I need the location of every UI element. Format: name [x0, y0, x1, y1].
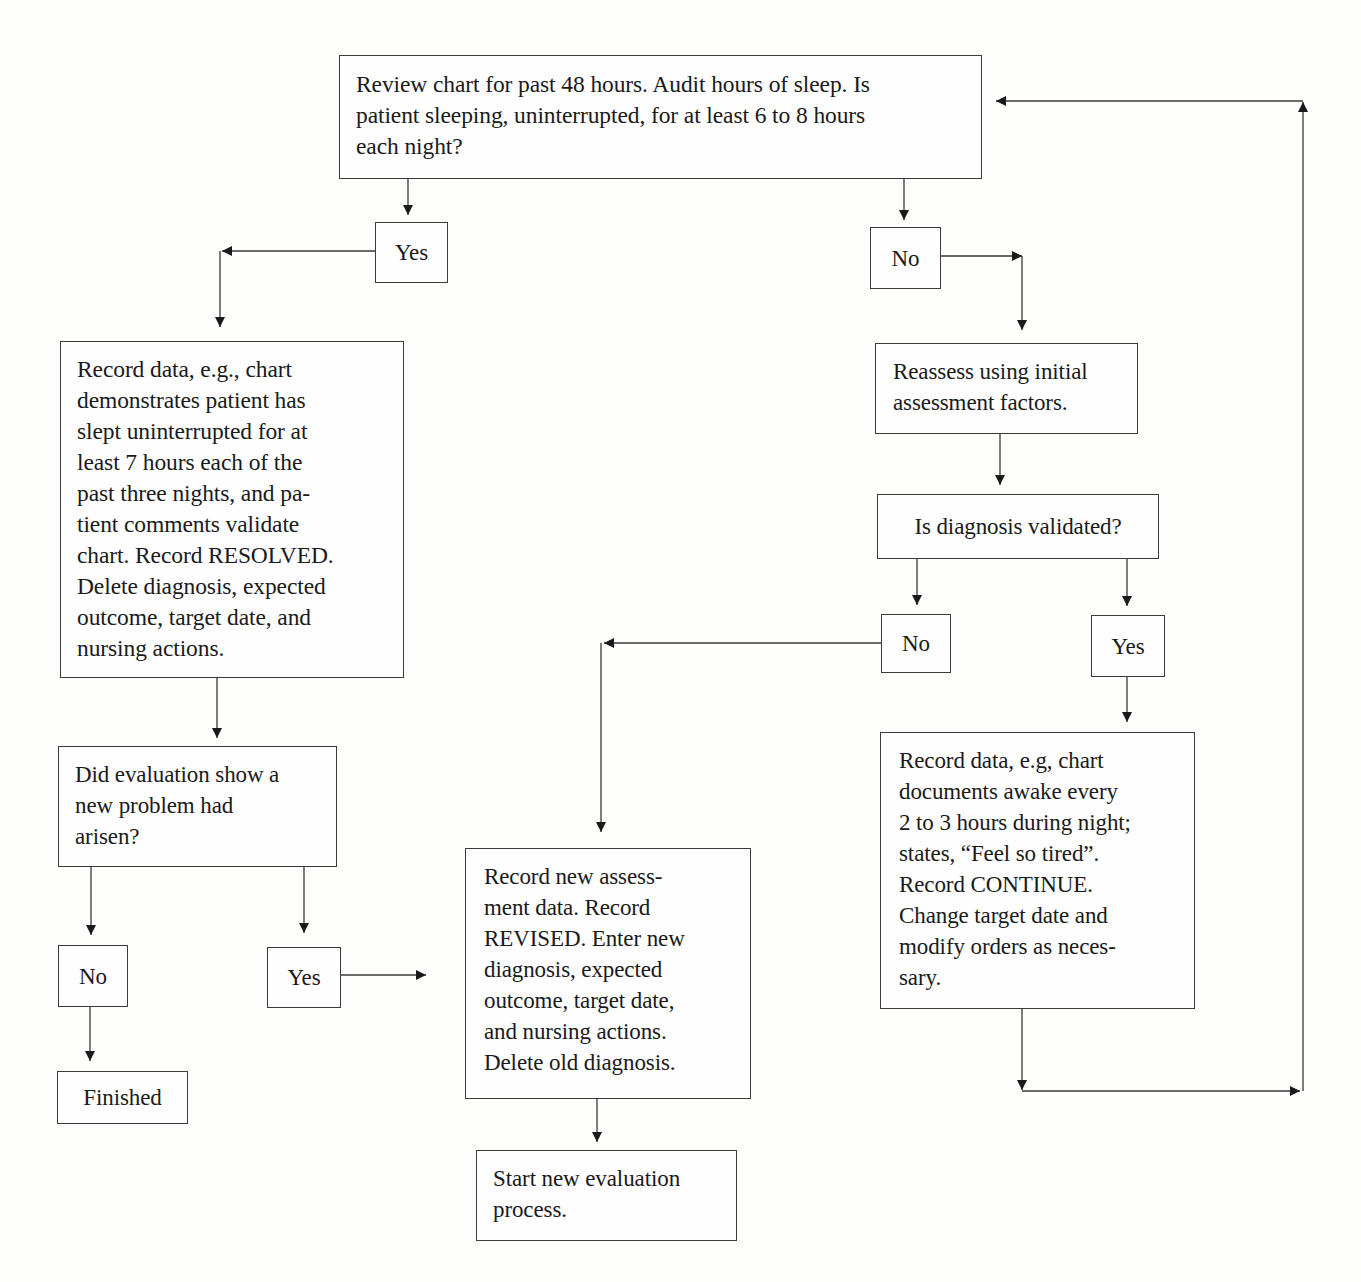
node-record-continue-text: Record data, e.g, chart documents awake … [899, 745, 1188, 993]
node-new-problem-text: Did evaluation show a new problem had ar… [75, 759, 326, 852]
node-no-validated: No [881, 614, 951, 673]
node-record-resolved-text: Record data, e.g., chart demonstrates pa… [77, 354, 393, 664]
node-reassess-text: Reassess using initial assessment factor… [893, 356, 1127, 418]
node-start-new-evaluation: Start new evaluation process. [476, 1150, 737, 1241]
node-no-sleep-text: No [892, 243, 920, 274]
node-yes-sleep: Yes [375, 222, 448, 283]
node-no-new-problem-text: No [79, 961, 107, 992]
node-record-revised-text: Record new assess- ment data. Record REV… [484, 861, 742, 1078]
node-finished: Finished [57, 1071, 188, 1124]
node-finished-text: Finished [83, 1082, 161, 1113]
node-record-continue: Record data, e.g, chart documents awake … [880, 732, 1195, 1009]
node-yes-new-problem-text: Yes [287, 962, 320, 993]
node-record-revised: Record new assess- ment data. Record REV… [465, 848, 751, 1099]
node-new-problem: Did evaluation show a new problem had ar… [58, 746, 337, 867]
node-start-new-evaluation-text: Start new evaluation process. [493, 1163, 728, 1225]
node-no-sleep: No [870, 227, 941, 289]
node-record-resolved: Record data, e.g., chart demonstrates pa… [60, 341, 404, 678]
node-yes-validated-text: Yes [1111, 631, 1144, 662]
node-review-chart-text: Review chart for past 48 hours. Audit ho… [356, 69, 965, 162]
flowchart-canvas: Review chart for past 48 hours. Audit ho… [0, 0, 1361, 1282]
node-diagnosis-validated-text: Is diagnosis validated? [914, 511, 1121, 542]
node-no-new-problem: No [58, 945, 128, 1007]
node-no-validated-text: No [902, 628, 930, 659]
node-yes-validated: Yes [1091, 615, 1165, 677]
node-diagnosis-validated: Is diagnosis validated? [877, 494, 1159, 559]
node-yes-sleep-text: Yes [395, 237, 428, 268]
node-review-chart: Review chart for past 48 hours. Audit ho… [339, 55, 982, 179]
node-yes-new-problem: Yes [267, 947, 341, 1008]
node-reassess: Reassess using initial assessment factor… [875, 343, 1138, 434]
